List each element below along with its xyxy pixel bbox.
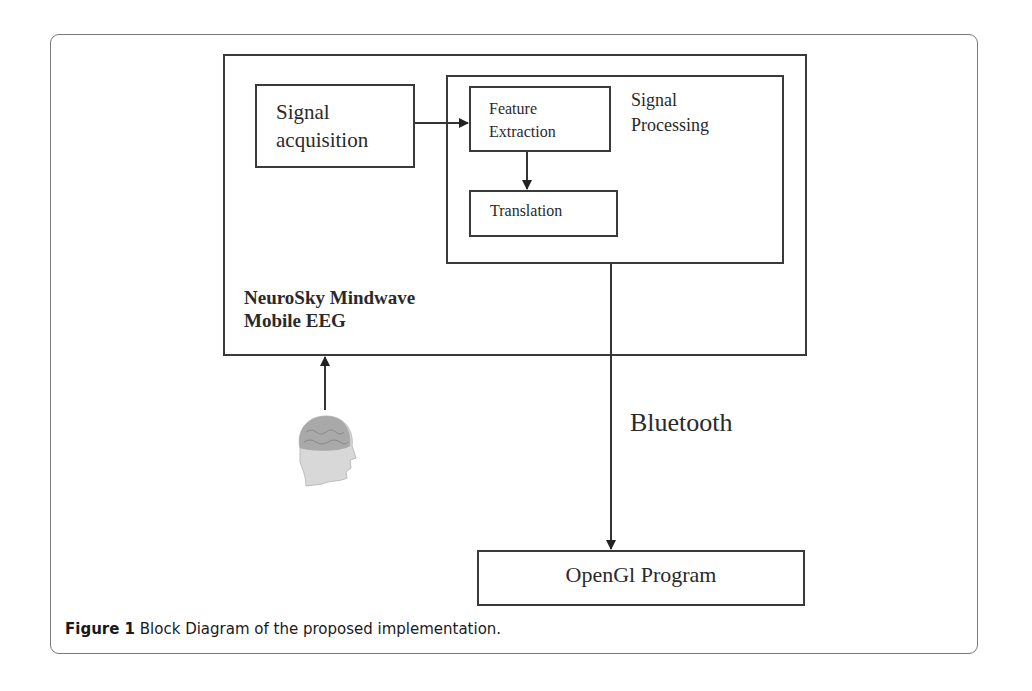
figure-caption-text: Block Diagram of the proposed implementa… [135, 620, 501, 638]
human-head-brain-icon [299, 416, 356, 486]
figure-caption: Figure 1 Block Diagram of the proposed i… [65, 620, 501, 638]
figure-caption-label: Figure 1 [65, 620, 135, 638]
connectors-layer [0, 0, 1032, 691]
